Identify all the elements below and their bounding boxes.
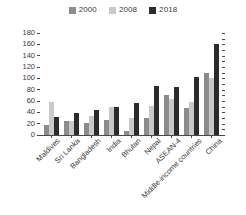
bar-group — [181, 33, 201, 135]
y-tick-label-60: 60 — [27, 97, 35, 105]
y-tick-label-140: 140 — [22, 52, 35, 60]
legend-label-2008: 2008 — [119, 6, 137, 14]
right-tick-mark-50 — [222, 107, 225, 108]
legend-swatch-2000 — [69, 7, 76, 14]
y-tick-label-40: 40 — [27, 108, 35, 116]
chart-legend: 200020082018 — [0, 6, 246, 14]
y-tick-180: 180 — [22, 28, 40, 38]
right-tick-mark-130 — [222, 61, 225, 62]
right-axis-ticks — [222, 26, 232, 141]
right-tick-mark-80 — [222, 90, 225, 91]
right-tick-mark-140 — [222, 56, 225, 57]
right-tick-mark-160 — [222, 44, 225, 45]
legend-swatch-2018 — [149, 7, 156, 14]
y-tick-20: 20 — [27, 119, 40, 129]
y-tick-160: 160 — [22, 39, 40, 49]
right-tick-mark-110 — [222, 73, 225, 74]
right-tick-mark-170 — [222, 39, 225, 40]
bar — [74, 113, 79, 135]
bar — [174, 87, 179, 135]
y-tick-label-20: 20 — [27, 120, 35, 128]
y-tick-label-180: 180 — [22, 29, 35, 37]
y-tick-120: 120 — [22, 62, 40, 72]
bar-group — [81, 33, 101, 135]
y-tick-0: 0 — [31, 130, 40, 140]
legend-entry-2018[interactable]: 2018 — [149, 6, 177, 14]
bar — [134, 103, 139, 135]
right-tick-mark-30 — [222, 118, 225, 119]
right-tick-mark-100 — [222, 78, 225, 79]
bar — [54, 117, 59, 135]
legend-entry-2008[interactable]: 2008 — [109, 6, 137, 14]
y-tick-label-160: 160 — [22, 40, 35, 48]
right-tick-mark-60 — [222, 101, 225, 102]
bar-group — [101, 33, 121, 135]
x-axis-label-bhutan: Bhutan — [120, 137, 142, 159]
legend-label-2000: 2000 — [79, 6, 97, 14]
right-tick-mark-120 — [222, 67, 225, 68]
y-axis: 180160140120100806040200 — [0, 26, 40, 141]
legend-swatch-2008 — [109, 7, 116, 14]
right-tick-mark-40 — [222, 112, 225, 113]
bar — [194, 77, 199, 135]
y-tick-140: 140 — [22, 51, 40, 61]
legend-entry-2000[interactable]: 2000 — [69, 6, 97, 14]
bar — [114, 107, 119, 135]
y-tick-label-80: 80 — [27, 86, 35, 94]
right-tick-mark-20 — [222, 124, 225, 125]
y-tick-label-0: 0 — [31, 131, 35, 139]
x-axis-labels: MaldivesSri LankaBangladeshIndiaBhutanNe… — [40, 137, 222, 213]
bar-group — [121, 33, 141, 135]
bar-group — [41, 33, 61, 135]
bar-group — [201, 33, 221, 135]
bar-group — [141, 33, 161, 135]
y-tick-label-120: 120 — [22, 63, 35, 71]
bar-chart: 200020082018 180160140120100806040200 Ma… — [0, 0, 246, 215]
legend-label-2018: 2018 — [159, 6, 177, 14]
bar-groups — [40, 33, 222, 135]
right-tick-mark-90 — [222, 84, 225, 85]
right-tick-mark-10 — [222, 129, 225, 130]
y-tick-40: 40 — [27, 107, 40, 117]
y-tick-60: 60 — [27, 96, 40, 106]
bar — [154, 86, 159, 135]
right-tick-mark-180 — [222, 33, 225, 34]
bar-group — [61, 33, 81, 135]
plot-area — [40, 33, 222, 135]
bar — [94, 110, 99, 136]
y-tick-label-100: 100 — [22, 74, 35, 82]
y-tick-100: 100 — [22, 73, 40, 83]
y-tick-80: 80 — [27, 85, 40, 95]
x-axis-label-china: China — [204, 137, 224, 157]
bar-group — [161, 33, 181, 135]
right-tick-mark-150 — [222, 50, 225, 51]
plot-wrapper: 180160140120100806040200 — [0, 26, 246, 141]
right-tick-mark-70 — [222, 95, 225, 96]
bar — [214, 44, 219, 135]
